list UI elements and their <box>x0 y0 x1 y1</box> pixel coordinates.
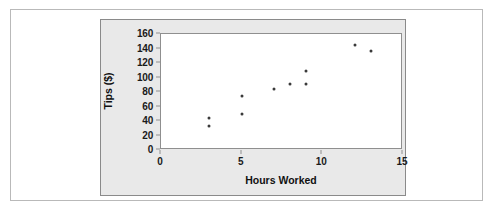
y-axis-tick-mark <box>156 134 160 135</box>
y-axis-tick-mark <box>156 33 160 34</box>
y-axis-tick-label: 100 <box>137 71 153 82</box>
chart-panel: Tips ($) 020406080100120140160 051015 Ho… <box>100 19 406 196</box>
data-point <box>305 83 308 86</box>
y-axis-tick-mark <box>156 120 160 121</box>
data-point <box>240 112 243 115</box>
y-axis-tick-label: 60 <box>142 100 153 111</box>
data-point <box>272 88 275 91</box>
y-axis-title: Tips ($) <box>102 72 114 109</box>
y-axis-tick-label: 140 <box>137 42 153 53</box>
data-point <box>353 43 356 46</box>
figure-card: Tips ($) 020406080100120140160 051015 Ho… <box>10 9 483 201</box>
y-axis-tick-label: 80 <box>142 86 153 97</box>
y-axis-tick-label: 40 <box>142 115 153 126</box>
x-axis-title: Hours Worked <box>245 174 317 186</box>
y-axis-tick-mark <box>156 47 160 48</box>
data-point <box>289 83 292 86</box>
data-point <box>240 94 243 97</box>
x-axis-tick-mark <box>402 150 403 154</box>
x-axis-tick-mark <box>240 150 241 154</box>
x-axis-tick-label: 5 <box>238 156 244 167</box>
x-axis-tick-mark <box>321 150 322 154</box>
y-axis-tick-label: 20 <box>142 129 153 140</box>
data-point <box>305 69 308 72</box>
y-axis-tick-mark <box>156 105 160 106</box>
y-axis-tick-label: 160 <box>137 28 153 39</box>
x-axis-tick-label: 0 <box>157 156 163 167</box>
y-axis-tick-mark <box>156 76 160 77</box>
data-point <box>208 117 211 120</box>
y-axis-tick-label: 0 <box>148 144 153 155</box>
x-axis-tick-label: 10 <box>316 156 327 167</box>
y-axis-tick-label: 120 <box>137 57 153 68</box>
plot-area <box>160 33 402 149</box>
y-axis-tick-mark <box>156 91 160 92</box>
data-point <box>369 50 372 53</box>
y-axis-tick-mark <box>156 62 160 63</box>
data-point <box>208 125 211 128</box>
x-axis-tick-mark <box>160 150 161 154</box>
x-axis-tick-label: 15 <box>396 156 407 167</box>
